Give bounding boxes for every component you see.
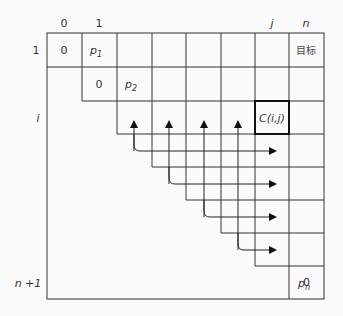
- column-label-j: j: [268, 17, 274, 30]
- cell-zero-bottom: 0: [289, 266, 324, 299]
- column-label-1: 1: [96, 17, 103, 30]
- right-arrow-2: [169, 167, 275, 184]
- right-arrow-3: [204, 200, 275, 217]
- cell-r1-c1: p1: [89, 44, 102, 59]
- row-label-i: i: [36, 112, 39, 125]
- cell-r2-c2: p2: [124, 78, 137, 93]
- right-arrow-4: [238, 233, 275, 250]
- cell-r2-c1: 0: [96, 78, 103, 91]
- column-label-n: n: [303, 17, 310, 30]
- cell-c-i-j: C(i,j): [259, 112, 285, 125]
- cell-goal: 目标: [296, 45, 316, 56]
- table-grid: [47, 33, 324, 299]
- cell-r1-c0: 0: [61, 44, 68, 57]
- row-label-1: 1: [33, 44, 40, 57]
- column-label-0: 0: [61, 17, 68, 30]
- row-label-n-plus-1: n +1: [15, 277, 42, 290]
- dependency-arrows: [134, 122, 275, 250]
